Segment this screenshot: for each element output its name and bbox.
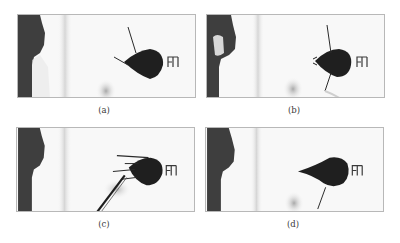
caption-d: (d) — [273, 219, 313, 229]
photo-c — [17, 128, 195, 212]
caption-b: (b) — [274, 105, 314, 115]
panel-d — [205, 127, 384, 212]
photo-a — [18, 15, 196, 98]
photo-b — [207, 15, 385, 98]
panel-a — [17, 14, 196, 98]
photo-d — [206, 128, 384, 212]
panel-b — [206, 14, 385, 98]
panel-c — [16, 127, 195, 212]
caption-a: (a) — [84, 105, 124, 115]
caption-c: (c) — [84, 219, 124, 229]
